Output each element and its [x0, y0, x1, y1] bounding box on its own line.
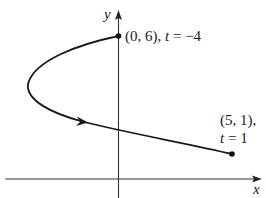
parametric-curve-figure: y x (0, 6), t = −4 (5, 1), t = 1 [0, 0, 266, 198]
start-param-value: −4 [185, 28, 201, 44]
end-param-value: 1 [240, 130, 248, 146]
direction-arrow-icon [76, 117, 88, 127]
end-param-var: t [220, 130, 224, 146]
y-axis-label: y [104, 7, 111, 22]
end-point-param: t = 1 [220, 131, 248, 146]
start-point-marker [116, 33, 122, 39]
start-point-coord: (0, 6) [125, 28, 158, 44]
x-axis-label: x [253, 182, 260, 197]
start-point-label: (0, 6), t = −4 [125, 29, 201, 44]
start-param-var: t [165, 28, 169, 44]
parametric-curve [28, 36, 232, 154]
end-point-marker [229, 151, 235, 157]
end-point-coord: (5, 1), [220, 113, 256, 128]
